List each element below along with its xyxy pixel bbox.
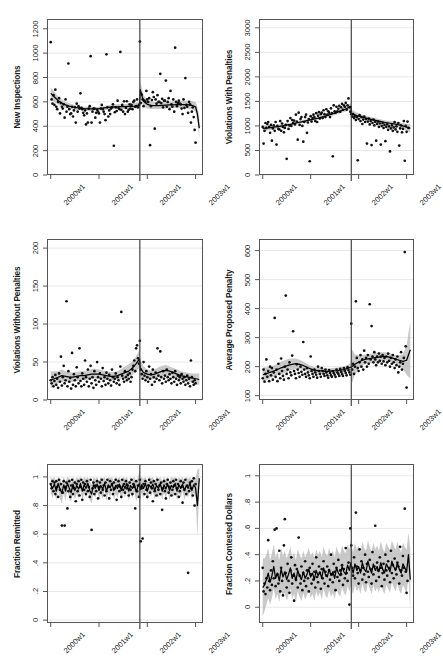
data-point <box>187 382 190 385</box>
data-point <box>379 359 382 362</box>
data-point <box>380 362 383 365</box>
data-point <box>353 556 356 559</box>
data-point <box>91 110 94 113</box>
data-point <box>294 564 297 567</box>
data-point <box>163 480 166 483</box>
data-point <box>117 379 120 382</box>
data-point <box>389 581 392 584</box>
data-point <box>382 360 385 363</box>
data-point <box>60 355 63 358</box>
data-point <box>120 496 123 499</box>
data-point <box>303 580 306 583</box>
data-point <box>134 370 137 373</box>
data-point <box>331 375 334 378</box>
data-point <box>261 377 264 380</box>
data-point <box>89 55 92 58</box>
data-point <box>373 124 376 127</box>
data-point <box>315 556 318 559</box>
data-point <box>355 300 358 303</box>
y-tick-label: .6 <box>31 531 40 537</box>
data-point <box>61 384 64 387</box>
data-point <box>314 586 317 589</box>
data-point <box>118 383 121 386</box>
data-point <box>194 382 197 385</box>
data-point <box>305 113 308 116</box>
data-point <box>170 382 173 385</box>
data-point <box>267 370 270 373</box>
data-point <box>366 142 369 145</box>
panel-violations-with-penalties: 050010001500200025003000Violations With … <box>212 0 423 220</box>
data-point <box>74 121 77 124</box>
data-point <box>289 117 292 120</box>
data-point <box>357 370 360 373</box>
data-point <box>181 113 184 116</box>
data-point <box>131 108 134 111</box>
data-point <box>184 383 187 386</box>
y-tick-label: 200 <box>31 144 40 157</box>
data-point <box>122 377 125 380</box>
data-point <box>153 127 156 130</box>
data-point <box>117 480 120 483</box>
y-tick-label: .2 <box>243 578 252 584</box>
data-point <box>298 124 301 127</box>
data-point <box>348 603 351 606</box>
data-point <box>342 584 345 587</box>
data-point <box>391 572 394 575</box>
data-point <box>359 120 362 123</box>
data-point <box>276 380 279 383</box>
data-point <box>301 125 304 128</box>
data-point <box>179 382 182 385</box>
data-point <box>110 384 113 387</box>
data-point <box>86 480 89 483</box>
data-point <box>269 131 272 134</box>
data-point <box>390 127 393 130</box>
data-point <box>91 376 94 379</box>
data-point <box>143 493 146 496</box>
data-point <box>156 347 159 350</box>
data-point <box>301 589 304 592</box>
data-point <box>75 366 78 369</box>
data-point <box>274 375 277 378</box>
data-point <box>149 377 152 380</box>
data-point <box>51 376 54 379</box>
data-point <box>270 569 273 572</box>
data-point <box>409 445 412 446</box>
data-point <box>173 380 176 383</box>
data-point <box>87 368 90 371</box>
data-point <box>121 478 124 481</box>
data-point <box>363 573 366 576</box>
data-point <box>261 566 264 569</box>
data-point <box>74 385 77 388</box>
data-point <box>114 372 117 375</box>
data-point <box>67 490 70 493</box>
data-point <box>303 368 306 371</box>
data-point <box>408 220 411 221</box>
data-point <box>86 380 89 383</box>
data-point <box>379 556 382 559</box>
data-point <box>167 97 170 100</box>
data-point <box>297 372 300 375</box>
data-point <box>148 97 151 100</box>
data-point <box>104 383 107 386</box>
data-point <box>88 377 91 380</box>
data-point <box>180 107 183 110</box>
data-point <box>323 582 326 585</box>
y-tick-label: .8 <box>243 499 252 505</box>
data-point <box>107 382 110 385</box>
data-point <box>330 107 333 110</box>
data-point <box>89 478 92 481</box>
data-point <box>63 524 66 527</box>
data-point <box>94 116 97 119</box>
data-point <box>58 478 61 481</box>
data-point <box>340 106 343 109</box>
data-point <box>405 130 408 133</box>
data-point <box>283 127 286 130</box>
data-point <box>179 480 182 483</box>
data-point <box>398 144 401 147</box>
data-point <box>50 98 53 101</box>
data-point <box>99 121 102 124</box>
data-point <box>406 120 409 123</box>
data-point <box>318 111 321 114</box>
y-tick-label: 0 <box>243 605 252 609</box>
data-point <box>387 352 390 355</box>
